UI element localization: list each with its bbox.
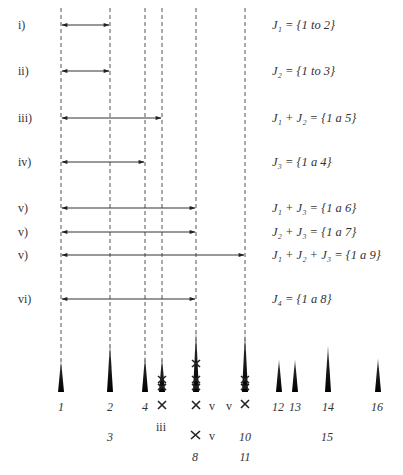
position-label: 4 [142,400,148,414]
position-label: 15 [321,430,333,444]
equation-text: J₄ = {1 a 8} [272,292,332,306]
equation-text: J₁ + J₂ = {1 a 5} [272,111,356,125]
row-label: vi) [18,292,31,306]
equations: J₁ = {1 to 2}J₂ = {1 to 3}J₁ + J₂ = {1 a… [272,18,381,306]
cross-marks [158,360,249,439]
spike-14 [325,345,331,392]
spike-4 [142,356,148,392]
equation-text: J₂ = {1 to 3} [272,64,335,78]
cross-icon [191,431,200,439]
position-label: 2 [107,400,113,414]
roman-label: v [209,399,215,413]
spikes [58,330,381,392]
diagram: i)ii)iii)iv)v)v)v)vi) J₁ = {1 to 2}J₂ = … [0,0,403,475]
row-label: v) [18,201,28,215]
cross-icon [192,401,200,409]
roman-label: v [226,399,232,413]
cross-icon [158,401,166,409]
position-label: 16 [371,400,383,414]
row-label: ii) [18,64,29,78]
cross-icon [241,400,249,408]
equation-text: J₁ + J₃ = {1 a 6} [272,201,356,215]
row-label: i) [18,18,25,32]
position-label: 11 [239,450,250,464]
spike-10 [242,332,248,392]
dashed-guides [61,8,245,390]
row-label: v) [18,225,28,239]
position-label: 8 [192,450,198,464]
position-label: 10 [239,430,251,444]
equation-text: J₁ = {1 to 2} [272,18,335,32]
roman-label: iii [156,420,167,434]
bottom-number-labels: 1241213141631510811 [58,400,383,464]
range-arrows [62,25,244,299]
position-label: 3 [106,430,113,444]
spike-16 [375,358,381,392]
row-label: iii) [18,111,32,125]
equation-text: J₁ + J₂ + J₃ = {1 a 9} [272,248,381,262]
position-label: 14 [322,400,334,414]
position-label: 13 [289,400,301,414]
position-label: 12 [272,400,284,414]
equation-text: J₂ + J₃ = {1 a 7} [272,225,356,239]
spike-13 [292,359,298,392]
spike-2 [107,343,113,392]
spike-1 [58,360,64,392]
roman-label: v [209,429,215,443]
row-label: iv) [18,155,31,169]
equation-text: J₃ = {1 a 4} [272,155,332,169]
position-label: 1 [58,400,64,414]
row-labels: i)ii)iii)iv)v)v)v)vi) [18,18,32,306]
row-label: v) [18,248,28,262]
spike-12 [276,359,282,392]
